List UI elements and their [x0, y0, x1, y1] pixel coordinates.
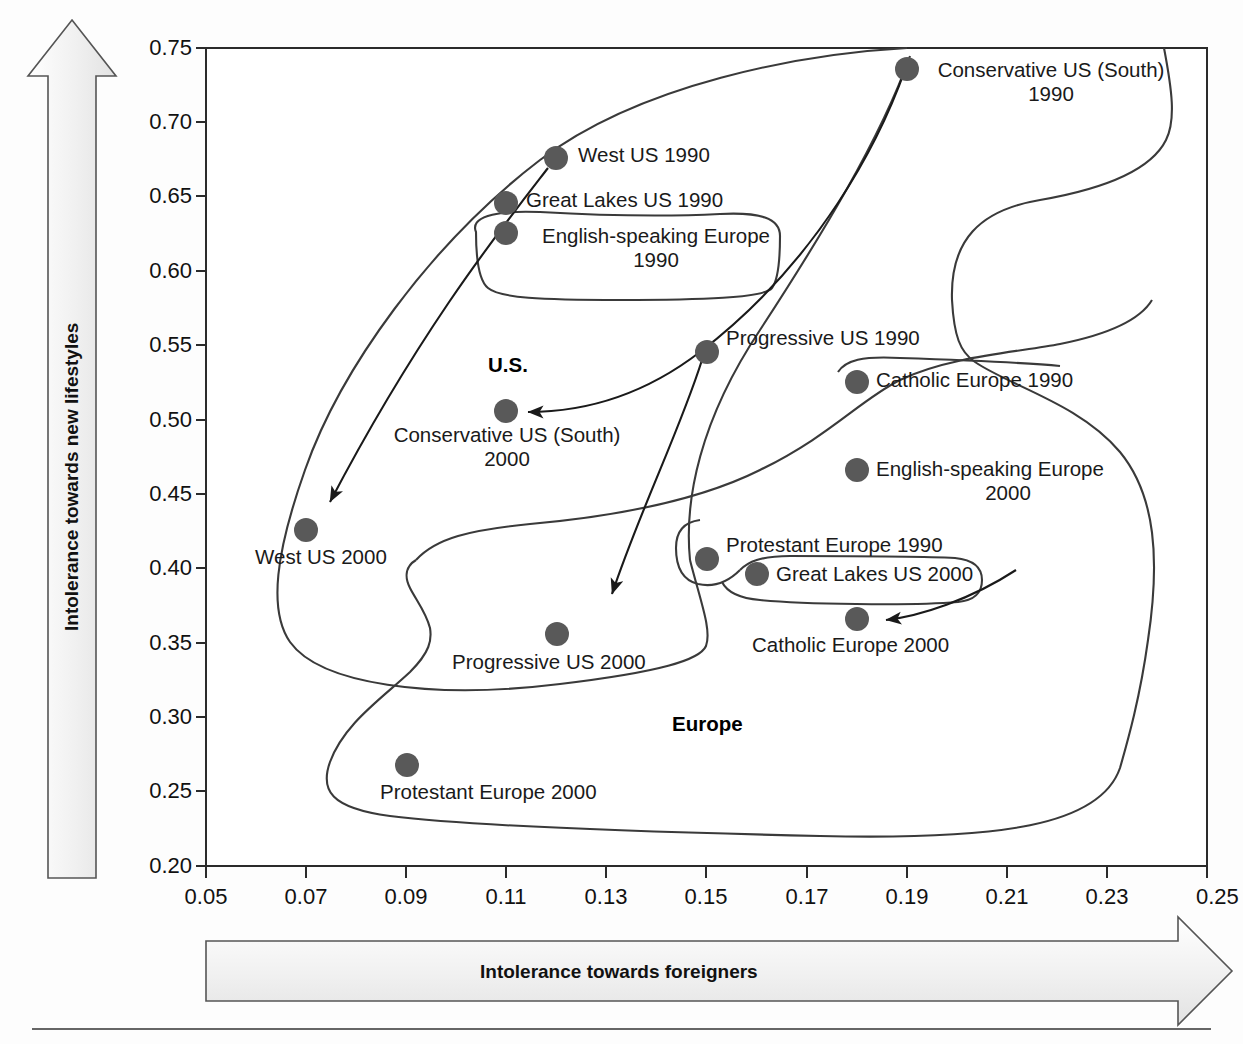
data-point — [845, 370, 869, 394]
point-label-english-speaking-europe-1990: English-speaking Europe 1990 — [521, 224, 791, 271]
x-tick-label: 0.21 — [972, 884, 1042, 910]
point-label-progressive-us-1990: Progressive US 1990 — [726, 326, 920, 350]
data-point — [494, 191, 518, 215]
y-tick-label: 0.50 — [122, 407, 192, 433]
group-label-us: U.S. — [488, 353, 528, 377]
y-axis-label: Intolerance towards new lifestyles — [61, 331, 83, 631]
y-tick-label: 0.25 — [122, 778, 192, 804]
data-point — [745, 562, 769, 586]
point-label-catholic-europe-1990: Catholic Europe 1990 — [876, 368, 1073, 392]
y-tick-label: 0.60 — [122, 258, 192, 284]
label-line-2: 2000 — [372, 447, 642, 471]
point-label-conservative-us-south-1990: Conservative US (South) 1990 — [926, 58, 1176, 105]
point-label-great-lakes-us-2000: Great Lakes US 2000 — [776, 562, 973, 586]
data-point — [695, 340, 719, 364]
y-tick-label: 0.45 — [122, 481, 192, 507]
x-axis-ticks — [206, 866, 1207, 878]
x-tick-label: 0.25 — [1196, 884, 1243, 910]
data-point — [494, 221, 518, 245]
chart-figure: 0.75 0.70 0.65 0.60 0.55 0.50 0.45 0.40 … — [0, 0, 1243, 1044]
y-tick-label: 0.65 — [122, 183, 192, 209]
point-label-protestant-europe-2000: Protestant Europe 2000 — [380, 780, 597, 804]
y-tick-label: 0.75 — [122, 35, 192, 61]
label-line-2: 1990 — [926, 82, 1176, 106]
data-point — [845, 607, 869, 631]
y-tick-label: 0.20 — [122, 853, 192, 879]
label-line-2: 2000 — [876, 481, 1140, 505]
x-tick-label: 0.17 — [772, 884, 842, 910]
point-label-english-speaking-europe-2000: English-speaking Europe 2000 — [876, 457, 1166, 504]
label-line-1: Conservative US (South) — [926, 58, 1176, 82]
x-tick-label: 0.09 — [371, 884, 441, 910]
x-tick-label: 0.07 — [271, 884, 341, 910]
x-tick-label: 0.15 — [671, 884, 741, 910]
y-tick-label: 0.35 — [122, 630, 192, 656]
point-label-west-us-1990: West US 1990 — [578, 143, 710, 167]
data-point — [494, 399, 518, 423]
y-tick-label: 0.70 — [122, 109, 192, 135]
data-point — [294, 518, 318, 542]
point-label-conservative-us-south-2000: Conservative US (South) 2000 — [372, 423, 642, 470]
data-point — [395, 753, 419, 777]
y-tick-label: 0.55 — [122, 332, 192, 358]
data-point — [845, 458, 869, 482]
x-tick-label: 0.11 — [471, 884, 541, 910]
label-line-1: Conservative US (South) — [372, 423, 642, 447]
x-axis-label: Intolerance towards foreigners — [480, 961, 758, 983]
label-line-1: English-speaking Europe — [876, 457, 1166, 481]
data-point — [545, 622, 569, 646]
x-tick-label: 0.19 — [872, 884, 942, 910]
point-label-protestant-europe-1990: Protestant Europe 1990 — [726, 533, 943, 557]
label-line-2: 1990 — [521, 248, 791, 272]
y-tick-label: 0.30 — [122, 704, 192, 730]
x-tick-label: 0.23 — [1072, 884, 1142, 910]
point-label-catholic-europe-2000: Catholic Europe 2000 — [752, 633, 949, 657]
point-label-progressive-us-2000: Progressive US 2000 — [452, 650, 646, 674]
point-label-great-lakes-us-1990: Great Lakes US 1990 — [526, 188, 723, 212]
data-point — [895, 57, 919, 81]
x-tick-label: 0.05 — [171, 884, 241, 910]
point-label-west-us-2000: West US 2000 — [255, 545, 387, 569]
data-point — [695, 547, 719, 571]
group-label-europe: Europe — [672, 712, 743, 736]
y-axis-ticks — [196, 48, 206, 866]
x-tick-label: 0.13 — [571, 884, 641, 910]
y-tick-label: 0.40 — [122, 555, 192, 581]
data-point — [544, 146, 568, 170]
label-line-1: English-speaking Europe — [521, 224, 791, 248]
